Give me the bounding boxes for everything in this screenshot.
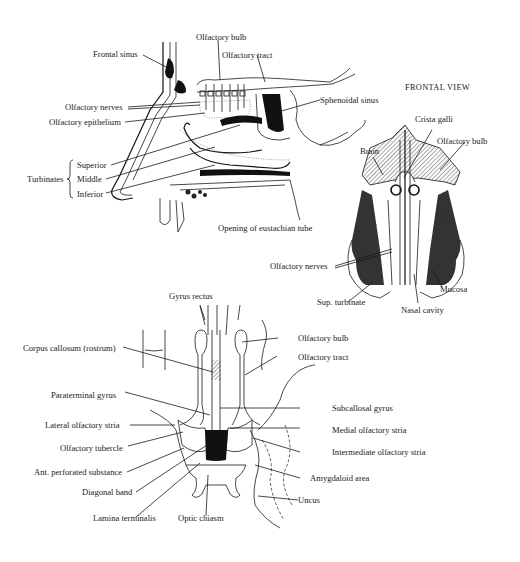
label-turbinate-middle: Middle <box>77 175 102 184</box>
label-medial-olfactory-stria: Medial olfactory stria <box>332 426 406 435</box>
label-crista-galli: Crista galli <box>415 115 453 124</box>
olfactory-nerve-fibers <box>200 84 245 112</box>
label-olfactory-bulb-sagittal: Olfactory bulb <box>196 33 246 42</box>
basal-brain-drawing <box>143 305 315 528</box>
label-nasal-cavity: Nasal cavity <box>401 306 444 315</box>
label-mucosa: Mucosa <box>440 285 467 294</box>
label-turbinates: Turbinates <box>27 175 63 184</box>
label-intermediate-olfactory-stria: Intermediate olfactory stria <box>332 448 426 457</box>
label-corpus-callosum: Corpus callosum (rostrum) <box>23 344 116 353</box>
label-brain: Brain <box>360 147 379 156</box>
label-olfactory-nerves-frontal: Olfactory nerves <box>270 262 328 271</box>
label-ant-perforated-substance: Ant. perforated substance <box>34 468 122 477</box>
label-frontal-sinus: Frontal sinus <box>93 50 138 59</box>
label-olfactory-tract-sagittal: Olfactory tract <box>222 51 272 60</box>
label-lateral-olfactory-stria: Lateral olfactory stria <box>45 421 119 430</box>
label-sphenoidal-sinus: Sphenoidal sinus <box>320 96 379 105</box>
label-diagonal-band: Diagonal band <box>82 488 132 497</box>
label-olfactory-epithelium: Olfactory epithelium <box>49 118 121 127</box>
label-uncus: Uncus <box>298 496 320 505</box>
sagittal-nasal-cavity-drawing <box>112 42 365 232</box>
label-olfactory-tract-basal: Olfactory tract <box>298 353 348 362</box>
label-turbinate-superior: Superior <box>77 161 107 170</box>
label-olfactory-bulb-frontal: Olfactory bulb <box>437 137 487 146</box>
label-eustachian-tube: Opening of eustachian tube <box>218 224 312 233</box>
turbinates-brace <box>67 160 73 198</box>
label-olfactory-bulb-basal: Olfactory bulb <box>298 334 348 343</box>
label-olfactory-nerves-sagittal: Olfactory nerves <box>65 103 123 112</box>
label-lamina-terminalis: Lamina terminalis <box>93 514 156 523</box>
label-optic-chiasm: Optic chiasm <box>178 514 224 523</box>
label-gyrus-rectus: Gyrus rectus <box>169 292 213 301</box>
label-amygdaloid-area: Amygdaloid area <box>310 474 369 483</box>
label-sup-turbinate: Sup. turbinate <box>317 298 365 307</box>
label-paraterminal-gyrus: Paraterminal gyrus <box>51 391 116 400</box>
label-turbinate-inferior: Inferior <box>77 190 103 199</box>
frontal-view-title: FRONTAL VIEW <box>405 84 470 92</box>
label-olfactory-tubercle: Olfactory tubercle <box>60 444 123 453</box>
label-subcallosal-gyrus: Subcallosal gyrus <box>332 404 393 413</box>
